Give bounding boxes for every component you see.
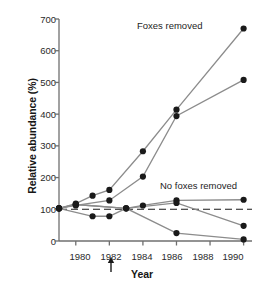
chart-container: Relative abundance (%) Year 700 600 500 …: [0, 0, 267, 290]
up-arrow-icon: [108, 257, 114, 272]
series-lines: [59, 29, 244, 240]
axis-lines: [59, 19, 252, 241]
x-axis-ticks: [76, 241, 244, 246]
series-markers: [56, 25, 247, 242]
plot-area: [0, 0, 267, 290]
